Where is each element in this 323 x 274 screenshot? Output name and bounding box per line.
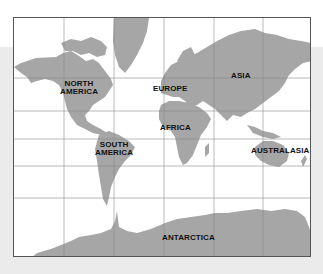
label-antarctica: ANTARCTICA [162,234,215,242]
label-america: AMERICA [95,149,133,157]
world-map [13,17,311,257]
se-asia-islands-shape [247,125,281,139]
map-svg [14,18,311,257]
label-america: AMERICA [60,88,98,96]
label-africa: AFRICA [160,124,191,132]
madagascar-shape [205,143,209,157]
greenland-shape [113,18,149,73]
label-asia: ASIA [231,72,251,80]
new-zealand-shape [301,155,307,167]
africa-shape [159,101,211,165]
label-europe: EUROPE [153,85,187,93]
label-north-america: NORTH AMERICA [60,80,98,96]
label-australasia: AUSTRALASIA [251,147,309,155]
label-south-america: SOUTH AMERICA [95,141,133,157]
